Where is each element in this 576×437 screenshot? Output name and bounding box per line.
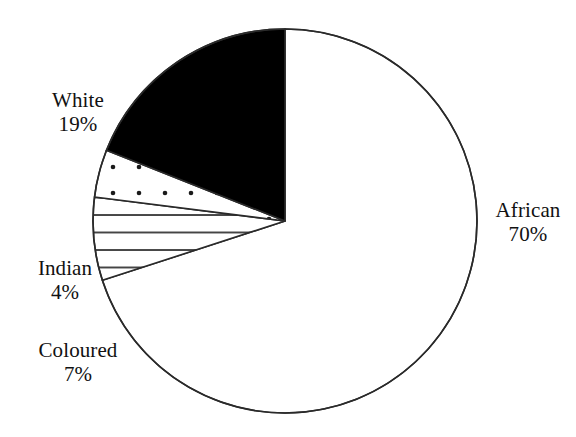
pie-label-african: African 70%	[480, 198, 576, 247]
pie-label-white-value: 19%	[22, 112, 134, 136]
pie-label-indian: Indian 4%	[6, 256, 124, 305]
pie-label-coloured-name: Coloured	[2, 338, 154, 362]
pie-label-african-name: African	[480, 198, 576, 222]
pie-label-indian-name: Indian	[6, 256, 124, 280]
pie-chart: White 19% Indian 4% Coloured 7% African …	[0, 0, 576, 437]
pie-label-coloured-value: 7%	[2, 362, 154, 386]
pie-label-african-value: 70%	[480, 222, 576, 246]
pie-label-white-name: White	[22, 88, 134, 112]
pie-label-coloured: Coloured 7%	[2, 338, 154, 387]
pie-label-white: White 19%	[22, 88, 134, 137]
pie-label-indian-value: 4%	[6, 280, 124, 304]
